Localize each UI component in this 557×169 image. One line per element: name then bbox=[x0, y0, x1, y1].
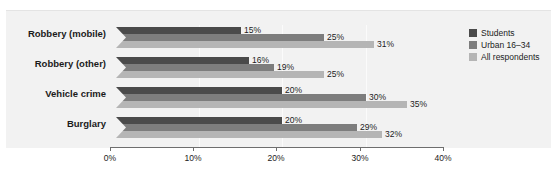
bar-urban-16-34 bbox=[116, 124, 357, 131]
bar-students bbox=[116, 117, 282, 124]
bar-all-respondents bbox=[116, 71, 324, 78]
x-axis-line bbox=[110, 147, 444, 148]
chart-legend: Students Urban 16–34 All respondents bbox=[469, 27, 540, 63]
category-label-robbery-other: Robbery (other) bbox=[2, 58, 106, 69]
legend-item-all-respondents[interactable]: All respondents bbox=[469, 51, 540, 62]
plot-area: 15% 25% 31% 16% 19% 25% 20% bbox=[116, 25, 449, 147]
bar-value-label: 35% bbox=[410, 101, 427, 108]
category-label-burglary: Burglary bbox=[2, 118, 106, 129]
bar-urban-16-34 bbox=[116, 94, 366, 101]
x-tick-label-0: 0% bbox=[104, 153, 116, 163]
bar-value-label: 30% bbox=[369, 94, 386, 101]
bar-group-vehicle-crime: 20% 30% 35% bbox=[116, 87, 449, 109]
x-tick-label-30: 30% bbox=[351, 153, 368, 163]
bar-group-robbery-other: 16% 19% 25% bbox=[116, 57, 449, 79]
bar-all-respondents bbox=[116, 101, 407, 108]
legend-swatch-icon bbox=[469, 53, 477, 61]
x-tick-label-10: 10% bbox=[184, 153, 201, 163]
legend-item-urban-16-34[interactable]: Urban 16–34 bbox=[469, 39, 540, 50]
bar-group-burglary: 20% 29% 32% bbox=[116, 117, 449, 139]
bar-value-label: 25% bbox=[327, 34, 344, 41]
category-axis-labels: Robbery (mobile) Robbery (other) Vehicle… bbox=[0, 10, 106, 147]
bar-urban-16-34 bbox=[116, 34, 324, 41]
bar-value-label: 16% bbox=[252, 57, 269, 64]
legend-label: All respondents bbox=[481, 52, 540, 62]
x-tick-0 bbox=[110, 147, 111, 151]
x-tick-label-40: 40% bbox=[434, 153, 451, 163]
legend-swatch-icon bbox=[469, 29, 477, 37]
legend-item-students[interactable]: Students bbox=[469, 27, 540, 38]
category-label-vehicle-crime: Vehicle crime bbox=[2, 88, 106, 99]
bar-students bbox=[116, 57, 249, 64]
x-tick-label-20: 20% bbox=[267, 153, 284, 163]
bar-value-label: 32% bbox=[385, 131, 402, 138]
bar-group-robbery-mobile: 15% 25% 31% bbox=[116, 27, 449, 49]
bar-value-label: 25% bbox=[327, 71, 344, 78]
bar-chart: 15% 25% 31% 16% 19% 25% 20% bbox=[0, 0, 557, 169]
bar-value-label: 15% bbox=[244, 27, 261, 34]
x-tick-10 bbox=[193, 147, 194, 151]
x-tick-40 bbox=[443, 147, 444, 151]
x-tick-30 bbox=[360, 147, 361, 151]
x-tick-20 bbox=[276, 147, 277, 151]
bar-all-respondents bbox=[116, 41, 374, 48]
bar-value-label: 29% bbox=[360, 124, 377, 131]
chart-title-strip bbox=[0, 0, 557, 9]
bar-students bbox=[116, 87, 282, 94]
bar-students bbox=[116, 27, 241, 34]
bar-value-label: 20% bbox=[285, 87, 302, 94]
bar-value-label: 19% bbox=[277, 64, 294, 71]
bar-value-label: 31% bbox=[377, 41, 394, 48]
legend-label: Urban 16–34 bbox=[481, 40, 530, 50]
legend-label: Students bbox=[481, 28, 515, 38]
bar-value-label: 20% bbox=[285, 117, 302, 124]
legend-swatch-icon bbox=[469, 41, 477, 49]
category-label-robbery-mobile: Robbery (mobile) bbox=[2, 28, 106, 39]
bar-all-respondents bbox=[116, 131, 382, 138]
bar-urban-16-34 bbox=[116, 64, 274, 71]
